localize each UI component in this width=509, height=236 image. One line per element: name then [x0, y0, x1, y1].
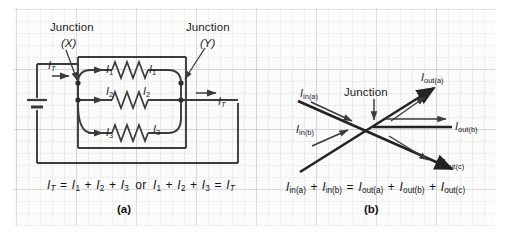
label-i1-left: I1	[106, 64, 113, 76]
label-i-in-a: Iin(a)	[300, 88, 318, 100]
arrow-out-c	[389, 136, 428, 160]
panel-b-direction-arrows	[311, 97, 446, 160]
junction-leader-lines	[66, 48, 205, 80]
label-i2-right: I2	[143, 86, 150, 98]
junction-dot-x2	[75, 97, 80, 102]
junction-dot-x	[75, 80, 80, 85]
battery-symbol	[27, 100, 47, 107]
circuit-diagram-panel-a	[37, 57, 238, 163]
junction-diagram-panel-b	[298, 88, 452, 172]
arrow-in-a	[311, 102, 352, 121]
figure-root: Junction (X) Junction (Y) IT IT I1 I1 I2…	[0, 0, 509, 236]
label-i2-left: I2	[106, 86, 113, 98]
junction-dot-y2	[178, 97, 183, 102]
arrow-out-a	[391, 97, 425, 121]
panel-b-label: (b)	[364, 203, 379, 215]
leader-line-junction-y	[185, 48, 205, 79]
label-i-out-b: Iout(b)	[455, 121, 478, 133]
junction-x-name: (X)	[61, 38, 76, 50]
resistor-symbols-group	[112, 62, 148, 141]
label-i-in-b: Iin(b)	[296, 124, 314, 136]
junction-y-name: (Y)	[200, 38, 215, 50]
resistor-symbol-r3	[112, 125, 148, 141]
resistor-symbol-r1	[112, 62, 148, 78]
junction-title-panel-b: Junction	[344, 87, 388, 99]
figure-drawing-layer	[0, 0, 509, 236]
label-i3-left: I3	[106, 127, 113, 139]
equation-panel-b: Iin(a) + Iin(b) = Iout(a) + Iout(b) + Io…	[286, 180, 465, 195]
label-it-out: IT	[218, 96, 226, 108]
label-i-out-a: Iout(a)	[421, 72, 444, 84]
line-in-b-to-out-a	[300, 88, 434, 172]
junction-dot-y	[178, 80, 183, 85]
label-it-out-sub: T	[221, 100, 226, 109]
junction-y-title: Junction	[186, 22, 230, 34]
panel-a-label: (a)	[117, 203, 131, 215]
arrow-in-b	[312, 130, 348, 146]
label-i3-right: I3	[153, 124, 160, 136]
branch-current-arrows	[88, 70, 216, 133]
label-i1-right: I1	[149, 64, 156, 76]
junction-x-title: Junction	[50, 22, 94, 34]
equation-panel-a: IT = I1 + I2 + I3 or I1 + I2 + I3 = IT	[47, 178, 235, 193]
label-i-out-c: Iout(c)	[442, 158, 464, 170]
label-it-in-sub: T	[51, 64, 56, 73]
label-it-in: IT	[48, 60, 56, 72]
